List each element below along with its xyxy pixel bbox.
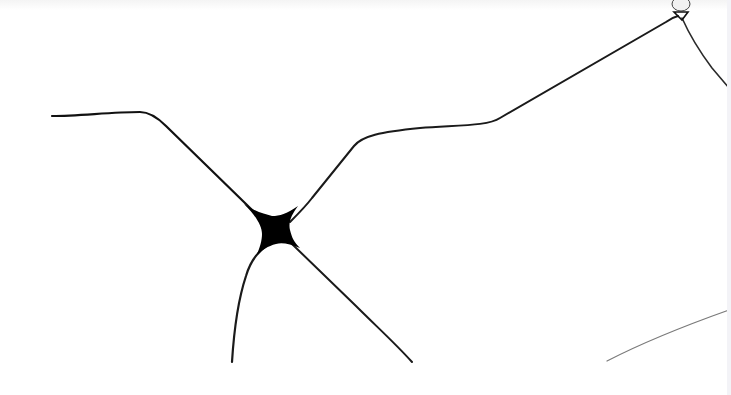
fiber-network-image bbox=[0, 0, 731, 395]
fiber-bottom-right-faint bbox=[607, 310, 729, 361]
fiber-lower-right bbox=[292, 244, 412, 362]
right-edge-strip bbox=[727, 0, 731, 395]
droplet-bead bbox=[672, 0, 690, 11]
fiber-lower-left bbox=[232, 246, 266, 362]
central-junction-blob bbox=[244, 204, 300, 256]
fiber-right-upper bbox=[290, 16, 678, 222]
fiber-strands bbox=[52, 16, 729, 362]
fiber-left-upper bbox=[52, 112, 266, 222]
fiber-top-right-branch bbox=[682, 18, 729, 88]
